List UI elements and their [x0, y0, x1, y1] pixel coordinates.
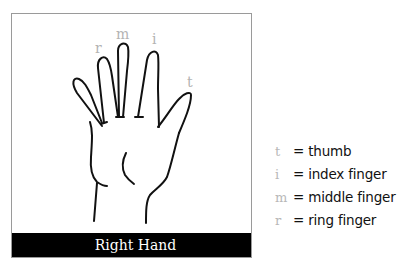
legend-text: = ring finger: [293, 212, 376, 228]
thumb-label: t: [187, 75, 193, 89]
index-finger-label: i: [152, 32, 156, 46]
legend-text: = index finger: [293, 166, 387, 182]
hand-diagram-frame: r m i t Right Hand: [11, 13, 252, 258]
legend-key: i: [275, 167, 293, 182]
right-hand-illustration: [12, 14, 253, 259]
legend-key: r: [275, 213, 293, 228]
legend-text: = thumb: [293, 143, 351, 159]
middle-finger-label: m: [116, 27, 129, 41]
ring-finger-label: r: [95, 41, 102, 55]
legend-key: t: [275, 144, 293, 159]
finger-legend: t = thumb i = index finger m = middle fi…: [275, 143, 395, 235]
legend-item-middle: m = middle finger: [275, 189, 395, 212]
caption-text: Right Hand: [95, 237, 177, 253]
legend-item-index: i = index finger: [275, 166, 395, 189]
caption-bar: Right Hand: [12, 233, 251, 257]
legend-item-thumb: t = thumb: [275, 143, 395, 166]
legend-key: m: [275, 190, 293, 205]
legend-text: = middle finger: [293, 189, 395, 205]
legend-item-ring: r = ring finger: [275, 212, 395, 235]
